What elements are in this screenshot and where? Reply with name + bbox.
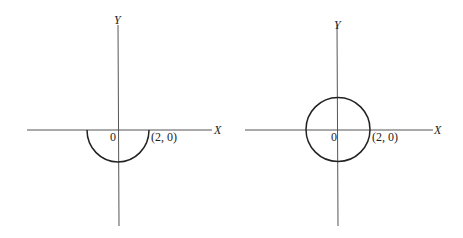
right-origin-label: 0 xyxy=(331,130,337,144)
right-y-label: Y xyxy=(334,18,342,32)
left-y-axis xyxy=(118,25,119,226)
left-semicircle xyxy=(87,130,149,162)
left-origin-label: 0 xyxy=(110,130,116,144)
right-y-axis xyxy=(337,25,338,226)
left-point-label: (2, 0) xyxy=(151,130,177,144)
diagram-canvas: Y X 0 (2, 0) Y X 0 (2, 0) xyxy=(0,0,463,238)
right-x-label: X xyxy=(433,123,442,137)
right-point-label: (2, 0) xyxy=(372,130,398,144)
left-figure: Y X 0 (2, 0) xyxy=(27,13,222,226)
left-x-label: X xyxy=(213,123,222,137)
left-y-label: Y xyxy=(114,13,122,27)
right-figure: Y X 0 (2, 0) xyxy=(245,18,442,226)
